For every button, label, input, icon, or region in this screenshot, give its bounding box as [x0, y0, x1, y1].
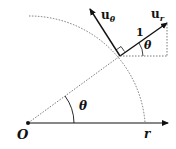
- dotted-radius-line: [28, 56, 120, 123]
- origin-point: [26, 121, 30, 125]
- theta-angle-label: θ: [79, 100, 87, 112]
- unit-length-label: 1: [136, 27, 144, 38]
- angle-arc-small: [139, 43, 143, 56]
- r-axis-label: r: [144, 128, 150, 140]
- u-r-label: ur: [151, 8, 164, 22]
- origin-label: O: [17, 128, 28, 141]
- theta-small-angle-label: θ: [144, 40, 151, 51]
- u-theta-label: uθ: [101, 9, 115, 23]
- angle-arc-origin: [65, 96, 74, 123]
- polar-unit-vectors-diagram: O r θ θ 1 ur uθ: [0, 0, 176, 149]
